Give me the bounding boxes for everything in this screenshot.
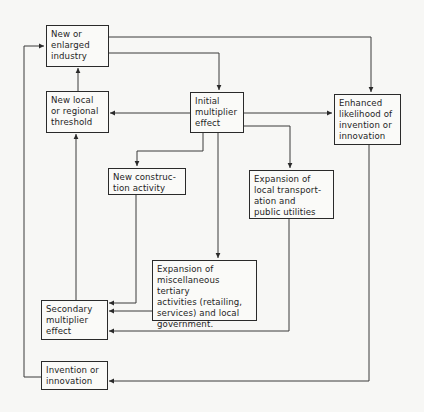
node-invention: Invention or innovation bbox=[41, 361, 108, 390]
node-initial-multiplier: Initial multiplier effect bbox=[190, 92, 244, 133]
node-enhanced-likelihood: Enhanced likelihood of invention or inno… bbox=[334, 94, 401, 145]
node-new-industry: New or enlarged industry bbox=[46, 25, 109, 67]
edge-industry-to-enhanced bbox=[109, 37, 371, 92]
edge-construction-to-secondary bbox=[109, 194, 136, 303]
edge-initial-to-transport bbox=[243, 126, 290, 168]
node-construction: New construc- tion activity bbox=[108, 168, 186, 195]
node-secondary-multiplier: Secondary multiplier effect bbox=[41, 300, 108, 340]
node-transport: Expansion of local transport- ation and … bbox=[249, 170, 334, 219]
edge-industry-to-initial bbox=[109, 53, 219, 90]
edge-initial-to-construction bbox=[137, 132, 203, 166]
node-tertiary: Expansion of miscellaneous tertiary acti… bbox=[152, 260, 257, 321]
node-threshold: New local or regional threshold bbox=[46, 91, 109, 133]
